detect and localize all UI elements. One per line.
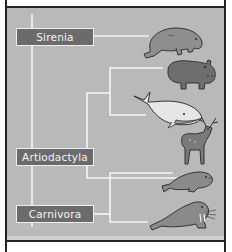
walrus-icon [148, 196, 218, 234]
deer-icon [176, 116, 220, 168]
group-label-sirenia: Sirenia [16, 28, 94, 46]
group-label-artiodactyla: Artiodactyla [16, 148, 94, 166]
seal-icon [160, 166, 216, 196]
group-label-carnivora: Carnivora [16, 205, 94, 223]
